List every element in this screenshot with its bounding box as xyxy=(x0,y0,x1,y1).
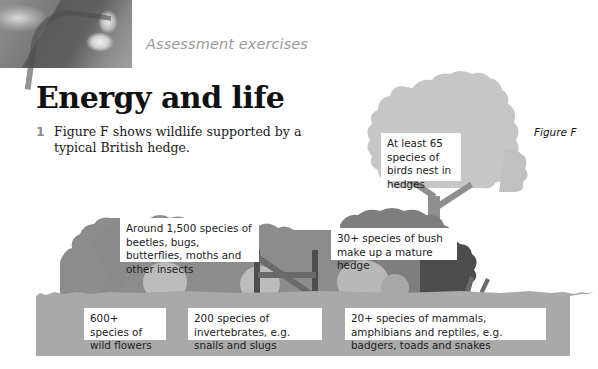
callout-flowers: 600+ species of wild flowers xyxy=(84,308,166,340)
callout-birds: At least 65 species of birds nest in hed… xyxy=(381,133,461,181)
callout-invertebrates: 200 species of invertebrates, e.g. snail… xyxy=(188,308,322,340)
callout-bush: 30+ species of bush make up a mature hed… xyxy=(331,228,457,260)
callout-mammals: 20+ species of mammals, amphibians and r… xyxy=(345,308,546,340)
callout-insects: Around 1,500 species of beetles, bugs, b… xyxy=(120,218,259,262)
